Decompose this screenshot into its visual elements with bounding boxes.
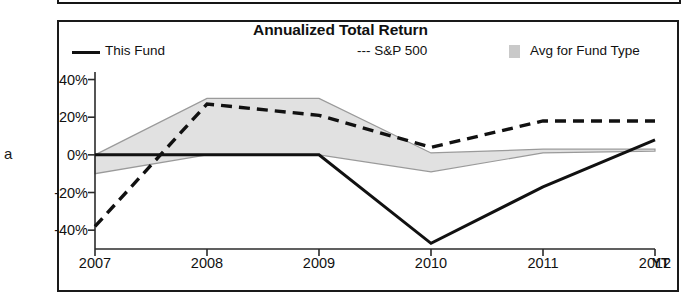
series-band-avg-fund-type <box>95 98 655 173</box>
chart-plot <box>0 0 681 305</box>
